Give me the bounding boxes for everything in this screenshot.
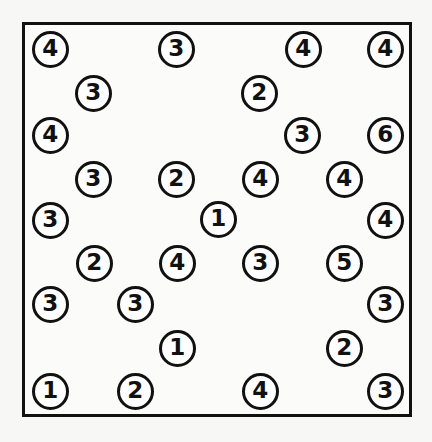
- circle-digit-label: 2: [168, 167, 184, 190]
- circle-digit-label: 4: [169, 251, 185, 274]
- circle-digit-label: 3: [252, 251, 268, 274]
- numbered-circle: 3: [75, 161, 112, 198]
- circle-digit-label: 3: [85, 167, 101, 190]
- numbered-circle: 5: [326, 245, 363, 282]
- circle-digit-label: 3: [42, 292, 58, 315]
- numbered-circle: 4: [242, 373, 279, 410]
- circle-digit-label: 2: [86, 251, 102, 274]
- circle-digit-label: 4: [42, 123, 58, 146]
- circle-digit-label: 4: [377, 208, 393, 231]
- circle-digit-label: 3: [168, 37, 184, 60]
- numbered-circle: 3: [367, 373, 404, 410]
- circle-digit-label: 4: [336, 167, 352, 190]
- circle-digit-label: 3: [127, 292, 143, 315]
- numbered-circle: 3: [117, 286, 154, 323]
- numbered-circle: 3: [158, 31, 195, 68]
- circle-digit-label: 6: [377, 123, 393, 146]
- numbered-circle: 4: [367, 31, 404, 68]
- circle-digit-label: 3: [85, 81, 101, 104]
- numbered-circle: 4: [285, 31, 322, 68]
- numbered-circle: 2: [326, 330, 363, 367]
- figure-canvas: 43443243632443142435333121243: [0, 0, 432, 442]
- circle-digit-label: 3: [42, 208, 58, 231]
- numbered-circle: 3: [32, 202, 69, 239]
- numbered-circle: 2: [158, 161, 195, 198]
- circle-digit-label: 2: [127, 379, 143, 402]
- numbered-circle: 2: [241, 75, 278, 112]
- numbered-circle: 1: [32, 373, 69, 410]
- circle-digit-label: 2: [336, 336, 352, 359]
- circle-digit-label: 2: [251, 81, 267, 104]
- numbered-circle: 3: [367, 286, 404, 323]
- circle-digit-label: 1: [42, 379, 58, 402]
- numbered-circle: 3: [242, 245, 279, 282]
- numbered-circle: 2: [76, 245, 113, 282]
- numbered-circle: 4: [32, 31, 69, 68]
- circle-digit-label: 3: [294, 123, 310, 146]
- numbered-circle: 1: [200, 201, 237, 238]
- circle-digit-label: 5: [336, 251, 352, 274]
- circle-digit-label: 1: [210, 207, 226, 230]
- circle-digit-label: 3: [377, 379, 393, 402]
- circle-digit-label: 4: [252, 167, 268, 190]
- numbered-circle: 2: [117, 373, 154, 410]
- numbered-circle: 3: [284, 117, 321, 154]
- circle-digit-label: 4: [42, 37, 58, 60]
- numbered-circle: 4: [326, 161, 363, 198]
- circle-digit-label: 3: [377, 292, 393, 315]
- numbered-circle: 3: [75, 75, 112, 112]
- circle-digit-label: 1: [169, 336, 185, 359]
- numbered-circle: 4: [32, 117, 69, 154]
- numbered-circle: 4: [159, 245, 196, 282]
- circle-digit-label: 4: [377, 37, 393, 60]
- circle-digit-label: 4: [252, 379, 268, 402]
- numbered-circle: 4: [242, 161, 279, 198]
- numbered-circle: 6: [367, 117, 404, 154]
- numbered-circle: 3: [32, 286, 69, 323]
- numbered-circle: 1: [159, 330, 196, 367]
- circle-digit-label: 4: [295, 37, 311, 60]
- numbered-circle: 4: [367, 202, 404, 239]
